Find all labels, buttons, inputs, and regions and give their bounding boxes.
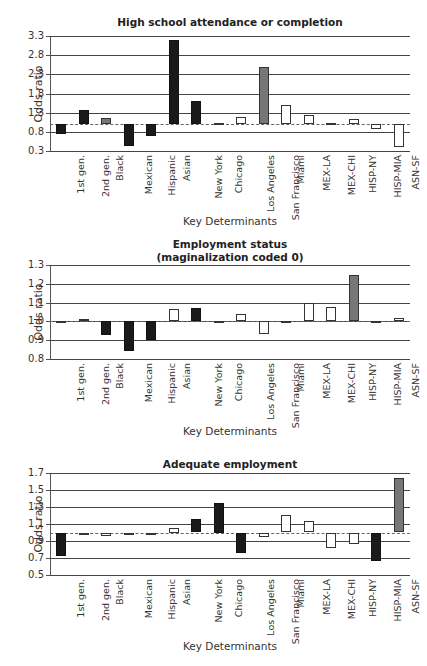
bar-mex-chi (326, 533, 336, 548)
x-tick: Hispanic (140, 361, 163, 423)
y-tick-mark (46, 74, 50, 75)
bar-miami (281, 105, 291, 124)
y-tick-mark (46, 524, 50, 525)
gridline (50, 151, 410, 152)
gridline (50, 74, 410, 75)
x-tick-label: ASN-SF (411, 363, 422, 398)
x-tick: Black (95, 577, 118, 639)
x-tick: Hispanic (140, 577, 163, 639)
x-tick: Black (95, 153, 118, 215)
bar-2nd-gen (79, 110, 89, 124)
x-tick-label: ASN-SF (411, 579, 422, 614)
bar-2nd-gen (79, 319, 89, 322)
x-tick: Miami (275, 361, 298, 423)
gridline (50, 340, 410, 341)
x-tick: MEX-LA (298, 577, 321, 639)
x-tick: Chicago (208, 361, 231, 423)
gridline (50, 55, 410, 56)
bar-los-angeles (236, 314, 246, 322)
bar-asian (169, 309, 179, 321)
gridline (50, 36, 410, 37)
gridline (50, 359, 410, 360)
x-axis-title: Key Determinants (50, 215, 410, 227)
x-tick: Asian (163, 153, 186, 215)
x-tick: HISP-NY (343, 361, 366, 423)
bar-1st-gen (56, 321, 66, 323)
y-tick-mark (46, 132, 50, 133)
x-tick-label: ASN-SF (411, 155, 422, 190)
bar-asn-sf (394, 124, 404, 147)
bar-mex-la (304, 303, 314, 322)
y-tick-label: 0.3 (20, 146, 44, 156)
y-axis-title: Odds ratio (32, 484, 45, 564)
y-tick-mark (46, 541, 50, 542)
bar-hisp-mia (371, 124, 381, 129)
bar-new-york (191, 101, 201, 124)
bar-hisp-ny (349, 533, 359, 545)
bar-hisp-mia (371, 533, 381, 562)
x-tick: Hispanic (140, 153, 163, 215)
bar-2nd-gen (79, 533, 89, 535)
x-tick: HISP-NY (343, 153, 366, 215)
gridline (50, 132, 410, 133)
chart-title: Adequate employment (50, 458, 410, 471)
x-tick: Los Angeles (230, 577, 253, 639)
x-axis-labels: 1st gen.2nd gen.BlackMexicanHispanicAsia… (50, 361, 410, 423)
y-tick-label: 1.7 (20, 468, 44, 478)
bar-hisp-ny (349, 119, 359, 124)
x-tick: Miami (275, 577, 298, 639)
y-axis-line (50, 265, 51, 359)
bar-mex-chi (326, 123, 336, 125)
x-tick: 2nd gen. (73, 153, 96, 215)
x-tick: HISP-MIA (365, 361, 388, 423)
y-axis-title: Odds ratio (32, 54, 45, 134)
y-tick-mark (46, 265, 50, 266)
y-tick-label: 0.5 (20, 570, 44, 580)
gridline (50, 507, 410, 508)
plot-area: 1.71.51.31.10.90.70.5Odds ratio (50, 473, 410, 575)
bar-los-angeles (236, 117, 246, 124)
x-tick: San Francisco (253, 361, 276, 423)
y-tick-mark (46, 113, 50, 114)
bar-black (101, 533, 111, 536)
x-tick: Los Angeles (230, 361, 253, 423)
gridline (50, 113, 410, 114)
bar-hispanic (146, 124, 156, 136)
y-tick-mark (46, 55, 50, 56)
x-tick: MEX-CHI (320, 153, 343, 215)
x-tick: Miami (275, 153, 298, 215)
y-tick-mark (46, 473, 50, 474)
y-tick-mark (46, 359, 50, 360)
y-tick-mark (46, 558, 50, 559)
y-tick-mark (46, 284, 50, 285)
x-tick: 2nd gen. (73, 361, 96, 423)
plot-area: 1.31.21.11.00.90.8Odds ratio (50, 265, 410, 359)
bar-miami (281, 515, 291, 533)
bar-los-angeles (236, 533, 246, 553)
y-tick-mark (46, 94, 50, 95)
gridline (50, 265, 410, 266)
gridline (50, 558, 410, 559)
chart-title: High school attendance or completion (50, 16, 410, 29)
x-tick: Los Angeles (230, 153, 253, 215)
x-tick: 1st gen. (50, 577, 73, 639)
bar-1st-gen (56, 533, 66, 557)
baseline-1 (50, 124, 410, 125)
chart-title-text: Employment status (50, 238, 410, 251)
y-axis-title: Odds ratio (32, 272, 45, 352)
bar-mexican (124, 533, 134, 535)
bar-mexican (124, 124, 134, 146)
bar-mex-la (304, 115, 314, 125)
chart-title-text: Adequate employment (50, 458, 410, 471)
x-tick: ASN-SF (388, 361, 411, 423)
y-tick-mark (46, 575, 50, 576)
y-tick-mark (46, 303, 50, 304)
x-axis-title: Key Determinants (50, 425, 410, 437)
bar-hispanic (146, 321, 156, 340)
bar-asian (169, 528, 179, 532)
y-tick-label: 0.8 (20, 354, 44, 364)
plot-area: 3.32.82.31.81.30.80.3Odds ratio (50, 36, 410, 151)
bar-san-francisco (259, 67, 269, 124)
x-tick: HISP-MIA (365, 577, 388, 639)
y-tick-mark (46, 151, 50, 152)
